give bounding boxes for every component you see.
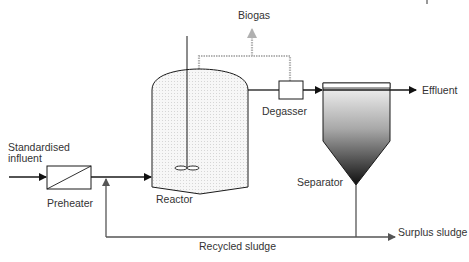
- effluent-label: Effluent: [422, 85, 457, 96]
- preheater-label: Preheater: [47, 198, 93, 209]
- surplus-sludge-label: Surplus sludge: [398, 227, 467, 238]
- preheater-box: [47, 166, 91, 189]
- process-diagram: [0, 0, 469, 262]
- reactor-vessel: [152, 36, 248, 194]
- separator-vessel: [323, 83, 390, 185]
- influent-label-line2: influent: [8, 153, 42, 164]
- separator-label: Separator: [297, 177, 343, 188]
- biogas-label: Biogas: [238, 10, 270, 21]
- reactor-label: Reactor: [156, 194, 193, 205]
- degasser-box: [279, 81, 303, 99]
- degasser-label: Degasser: [262, 106, 307, 117]
- recycled-sludge-label: Recycled sludge: [199, 241, 276, 252]
